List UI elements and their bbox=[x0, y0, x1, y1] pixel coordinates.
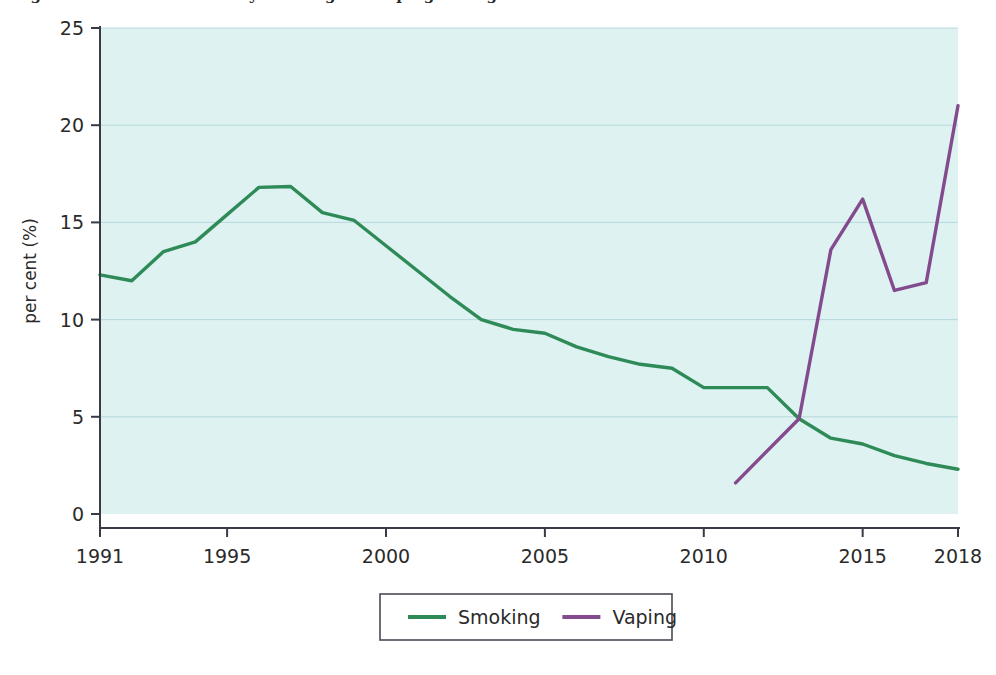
legend-label-vaping: Vaping bbox=[612, 606, 677, 628]
legend-label-smoking: Smoking bbox=[458, 606, 541, 628]
x-tick-label-2000: 2000 bbox=[362, 545, 410, 567]
plot-area bbox=[100, 28, 958, 514]
y-tick-label-0: 0 bbox=[72, 503, 84, 525]
line-chart: 0510152025 1991199520002005201020152018 … bbox=[0, 0, 996, 675]
x-tick-label-2010: 2010 bbox=[680, 545, 728, 567]
figure-container: Figure 1: Prevalence of daily smoking an… bbox=[0, 0, 996, 675]
x-tick-label-1991: 1991 bbox=[76, 545, 124, 567]
y-axis-ticks: 0510152025 bbox=[60, 17, 100, 525]
y-tick-label-5: 5 bbox=[72, 406, 84, 428]
x-tick-label-1995: 1995 bbox=[203, 545, 251, 567]
y-axis-title-group: per cent (%) bbox=[20, 218, 40, 324]
y-tick-label-20: 20 bbox=[60, 114, 84, 136]
plot-background bbox=[100, 28, 958, 514]
x-axis-ticks: 1991199520002005201020152018 bbox=[76, 528, 982, 567]
x-tick-label-2005: 2005 bbox=[521, 545, 569, 567]
y-tick-label-25: 25 bbox=[60, 17, 84, 39]
y-axis-title: per cent (%) bbox=[20, 218, 40, 324]
x-tick-label-2015: 2015 bbox=[838, 545, 886, 567]
x-tick-label-2018: 2018 bbox=[934, 545, 982, 567]
y-tick-label-15: 15 bbox=[60, 211, 84, 233]
chart-legend: SmokingVaping bbox=[380, 594, 677, 640]
y-tick-label-10: 10 bbox=[60, 309, 84, 331]
